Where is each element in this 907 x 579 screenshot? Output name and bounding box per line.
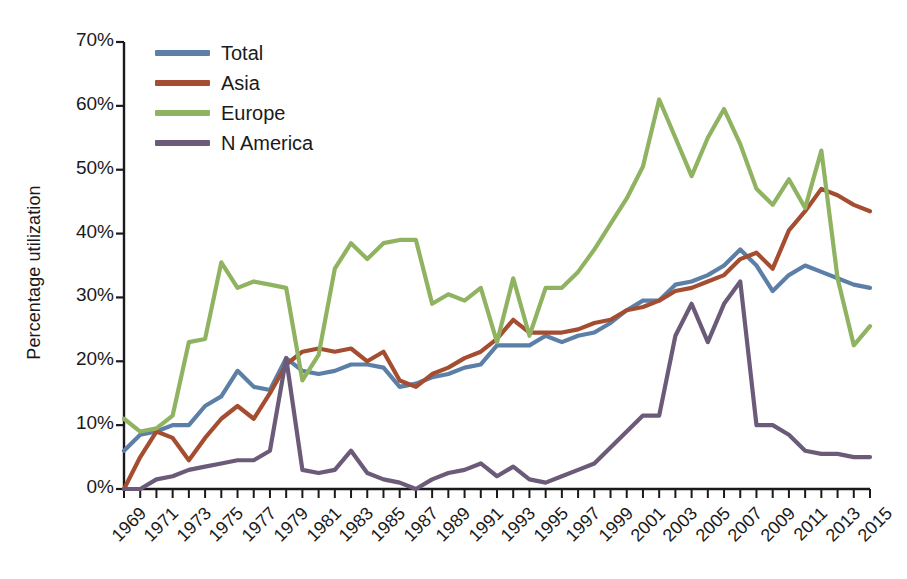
legend-item-label: Total xyxy=(221,43,263,63)
legend-color-swatch xyxy=(155,50,210,56)
legend-item: N America xyxy=(155,128,313,158)
legend-item: Asia xyxy=(155,68,313,98)
series-line-total xyxy=(124,250,870,451)
series-line-n-america xyxy=(124,281,870,489)
line-chart-plot xyxy=(0,0,907,579)
chart-legend: TotalAsiaEuropeN America xyxy=(155,38,313,158)
legend-item-label: N America xyxy=(221,133,313,153)
chart-container: Percentage utilization 0%10%20%30%40%50%… xyxy=(0,0,907,579)
legend-item: Total xyxy=(155,38,313,68)
x-axis-ticks xyxy=(124,489,870,498)
legend-color-swatch xyxy=(155,80,210,86)
legend-color-swatch xyxy=(155,110,210,116)
legend-item-label: Asia xyxy=(221,73,260,93)
legend-item-label: Europe xyxy=(221,103,286,123)
legend-item: Europe xyxy=(155,98,313,128)
legend-color-swatch xyxy=(155,140,210,146)
